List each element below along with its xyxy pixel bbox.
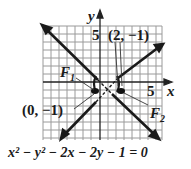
focus-1-letter: F bbox=[60, 64, 70, 80]
equation-caption: x² − y² − 2x − 2y − 1 = 0 bbox=[8, 146, 148, 160]
x-axis-label: x bbox=[167, 84, 175, 99]
focus-2-label: F2 bbox=[150, 106, 165, 124]
hyperbola-plot bbox=[0, 0, 191, 169]
focus-1-label: F1 bbox=[60, 65, 75, 83]
y-tick-label: 5 bbox=[92, 28, 100, 43]
focus-2-letter: F bbox=[150, 105, 160, 121]
vertex-right-label: (2, −1) bbox=[108, 28, 149, 43]
x-tick-label: 5 bbox=[147, 84, 155, 99]
focus-2-subscript: 2 bbox=[160, 113, 165, 124]
vertex-left-label: (0, −1) bbox=[22, 103, 63, 118]
y-axis-label: y bbox=[88, 9, 95, 24]
leader-lines bbox=[74, 42, 148, 109]
focus-1-subscript: 1 bbox=[70, 72, 75, 83]
